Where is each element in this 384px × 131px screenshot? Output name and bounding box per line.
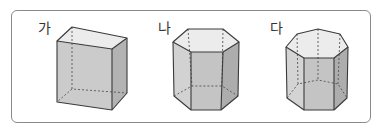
rectangular-prism [57, 27, 127, 110]
octagonal-prism [286, 29, 348, 110]
hexagonal-prism [173, 29, 239, 110]
prisms-diagram [0, 0, 384, 131]
